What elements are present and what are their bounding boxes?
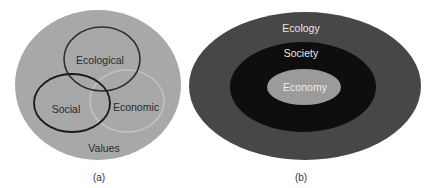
economic-label: Economic bbox=[113, 101, 159, 113]
ecological-label: Ecological bbox=[76, 54, 124, 66]
values-label: Values bbox=[88, 142, 119, 154]
caption-a: (a) bbox=[93, 172, 105, 183]
ecology-label: Ecology bbox=[282, 22, 320, 34]
diagram-b-nested: Ecology Society Economy bbox=[189, 12, 421, 160]
social-label: Social bbox=[52, 103, 81, 115]
caption-b: (b) bbox=[295, 172, 307, 183]
diagram-a-venn: Ecological Social Economic Values bbox=[15, 10, 181, 160]
values-ellipse bbox=[15, 10, 181, 160]
economy-label: Economy bbox=[283, 81, 328, 93]
society-label: Society bbox=[284, 47, 319, 59]
